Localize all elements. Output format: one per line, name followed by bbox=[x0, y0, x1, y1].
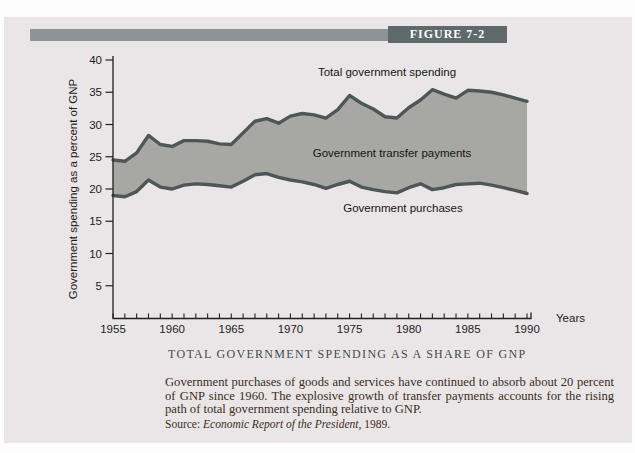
total-spending-label: Total government spending bbox=[267, 66, 507, 78]
x-tick-label: 1970 bbox=[278, 323, 304, 335]
figure-description: Government purchases of goods and servic… bbox=[165, 376, 614, 417]
y-tick-label: 20 bbox=[89, 183, 102, 195]
y-tick-label: 10 bbox=[89, 248, 102, 260]
source-work-title: Economic Report of the President, bbox=[203, 418, 361, 430]
y-tick-label: 40 bbox=[89, 54, 102, 66]
source-prefix: Source: bbox=[165, 418, 200, 430]
y-tick-label: 15 bbox=[89, 215, 102, 227]
x-tick-label: 1990 bbox=[514, 323, 540, 335]
y-tick-label: 30 bbox=[89, 119, 102, 131]
source-citation: Source: Economic Report of the President… bbox=[165, 418, 390, 430]
figure-caption: TOTAL GOVERNMENT SPENDING AS A SHARE OF … bbox=[168, 347, 526, 362]
x-tick-label: 1965 bbox=[218, 323, 244, 335]
x-tick-label: 1980 bbox=[396, 323, 422, 335]
x-tick-label: 1975 bbox=[337, 323, 363, 335]
y-tick-label: 25 bbox=[89, 151, 102, 163]
x-tick-label: 1960 bbox=[159, 323, 185, 335]
y-tick-label: 35 bbox=[89, 86, 102, 98]
source-year: 1989. bbox=[364, 418, 390, 430]
x-axis-title: Years bbox=[556, 312, 585, 324]
y-tick-label: 5 bbox=[96, 280, 102, 292]
government-purchases-label: Government purchases bbox=[283, 202, 523, 214]
page: FIGURE 7-2 51015202530354019551960196519… bbox=[0, 0, 635, 453]
x-tick-label: 1985 bbox=[455, 323, 481, 335]
x-tick-label: 1955 bbox=[100, 323, 126, 335]
y-axis-title: Government spending as a percent of GNP bbox=[67, 79, 79, 300]
transfer-payments-label: Government transfer payments bbox=[272, 147, 512, 159]
